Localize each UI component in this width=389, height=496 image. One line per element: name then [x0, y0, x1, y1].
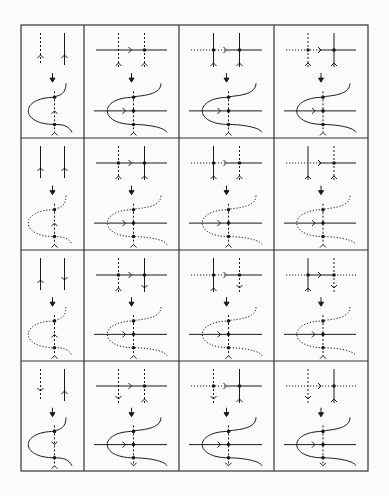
cell-r1-c3	[284, 146, 356, 248]
node-dot	[117, 273, 121, 277]
transition-arrow-icon	[129, 302, 134, 306]
fold-curve	[107, 307, 167, 356]
fold-curve	[297, 307, 356, 356]
fold-curve	[202, 196, 262, 245]
node-dot	[227, 221, 231, 225]
node-dot	[53, 96, 57, 100]
cell-r3-c0	[28, 369, 72, 469]
node-dot	[321, 319, 325, 323]
node-dot	[306, 48, 310, 52]
node-dot	[306, 273, 310, 277]
fold-curve	[297, 83, 356, 132]
arrow-up-icon	[131, 132, 137, 135]
fold-curve	[28, 307, 72, 356]
node-dot	[332, 273, 336, 277]
transition-arrow-icon	[50, 413, 55, 417]
node-dot	[132, 319, 136, 323]
node-dot	[132, 443, 136, 447]
arrow-up-icon	[320, 356, 326, 359]
node-dot	[238, 384, 242, 388]
node-dot	[227, 319, 231, 323]
transition-arrow-icon	[319, 302, 324, 306]
cell-r0-c1	[94, 33, 167, 135]
node-dot	[321, 208, 325, 212]
transition-arrow-icon	[224, 191, 229, 195]
node-dot	[132, 96, 136, 100]
cell-r3-c2	[189, 369, 262, 466]
cell-r2-c2	[189, 258, 262, 359]
grid-cells	[28, 33, 356, 469]
node-dot	[143, 48, 147, 52]
cell-r3-c1	[94, 369, 167, 466]
fold-curve	[107, 417, 167, 465]
grid-border	[21, 25, 368, 471]
transition-arrow-icon	[129, 78, 134, 82]
cell-r1-c0	[28, 146, 72, 248]
node-dot	[53, 346, 57, 350]
fold-curve	[28, 417, 72, 465]
node-dot	[238, 48, 242, 52]
transition-arrow-icon	[319, 191, 324, 195]
node-dot	[132, 235, 136, 239]
fold-curve	[202, 417, 262, 465]
node-dot	[227, 235, 231, 239]
node-dot	[321, 456, 325, 460]
node-dot	[212, 384, 216, 388]
node-dot	[321, 96, 325, 100]
node-dot	[53, 123, 57, 127]
fold-curve	[297, 417, 356, 465]
arrow-up-icon	[131, 245, 137, 248]
node-dot	[227, 430, 231, 434]
node-dot	[53, 319, 57, 323]
transition-arrow-icon	[50, 78, 55, 82]
arrow-up-icon	[52, 132, 58, 135]
node-dot	[227, 123, 231, 127]
fold-curve	[28, 83, 72, 132]
arrow-up-icon	[131, 356, 137, 359]
node-dot	[132, 109, 136, 113]
node-dot	[132, 456, 136, 460]
node-dot	[321, 333, 325, 337]
cell-r0-c2	[189, 33, 262, 135]
fold-curve	[202, 307, 262, 356]
node-dot	[321, 235, 325, 239]
arrow-up-icon	[320, 132, 326, 135]
node-dot	[53, 430, 57, 434]
node-dot	[332, 48, 336, 52]
transition-arrow-icon	[129, 191, 134, 195]
fold-curve	[107, 83, 167, 132]
node-dot	[238, 273, 242, 277]
transition-arrow-icon	[50, 191, 55, 195]
transition-arrow-icon	[319, 78, 324, 82]
node-dot	[212, 48, 216, 52]
node-dot	[227, 96, 231, 100]
bifurcation-diagram-grid	[0, 0, 389, 496]
arrow-up-icon	[52, 356, 58, 359]
node-dot	[321, 123, 325, 127]
fold-curve	[202, 83, 262, 132]
node-dot	[143, 161, 147, 165]
arrow-up-icon	[226, 356, 232, 359]
node-dot	[132, 208, 136, 212]
node-dot	[332, 384, 336, 388]
cell-r3-c3	[284, 369, 356, 466]
node-dot	[321, 221, 325, 225]
node-dot	[53, 208, 57, 212]
cell-r2-c3	[284, 258, 356, 359]
transition-arrow-icon	[50, 302, 55, 306]
arrow-up-icon	[226, 132, 232, 135]
node-dot	[53, 235, 57, 239]
fold-curve	[28, 196, 72, 245]
cell-r2-c1	[94, 258, 167, 359]
arrow-up-icon	[226, 245, 232, 248]
arrow-up-icon	[52, 466, 58, 469]
node-dot	[132, 221, 136, 225]
transition-arrow-icon	[129, 413, 134, 417]
node-dot	[143, 273, 147, 277]
arrow-up-icon	[320, 245, 326, 248]
node-dot	[227, 109, 231, 113]
grid-frame	[21, 25, 368, 471]
node-dot	[227, 208, 231, 212]
cell-r1-c2	[189, 146, 262, 248]
node-dot	[321, 430, 325, 434]
